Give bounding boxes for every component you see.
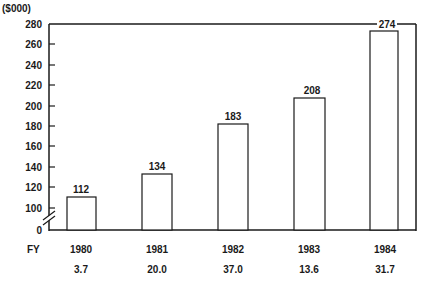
y-tick-label: 240 (25, 60, 42, 71)
y-tick-label: 140 (25, 162, 42, 173)
secondary-value: 13.6 (299, 264, 319, 275)
secondary-value: 20.0 (147, 264, 167, 275)
secondary-row-values: 3.7 20.0 37.0 13.6 31.7 (74, 264, 395, 275)
bar-1981 (142, 174, 172, 230)
y-axis-tick-labels: 280 260 240 220 200 180 160 140 120 100 … (25, 19, 42, 236)
y-tick-label: 160 (25, 141, 42, 152)
bar-chart: ($000) 280 260 240 220 200 180 160 140 1… (0, 0, 422, 285)
x-axis-label-fy: FY (27, 244, 40, 255)
y-tick-label: 260 (25, 39, 42, 50)
secondary-value: 37.0 (223, 264, 243, 275)
y-tick-label: 0 (36, 225, 42, 236)
x-category-label: 1981 (146, 244, 169, 255)
bar-value-label: 183 (225, 111, 242, 122)
x-category-label: 1980 (70, 244, 93, 255)
y-tick-label: 220 (25, 80, 42, 91)
bar-value-label: 208 (304, 85, 321, 96)
secondary-value: 31.7 (375, 264, 395, 275)
bar-1980 (67, 197, 96, 230)
x-axis-category-labels: 1980 1981 1982 1983 1984 (70, 244, 397, 255)
bars (67, 31, 398, 230)
bar-value-label: 134 (149, 161, 166, 172)
y-axis-unit-label: ($000) (2, 3, 31, 14)
x-category-label: 1984 (374, 244, 397, 255)
bar-1983 (294, 98, 325, 230)
bar-1982 (218, 124, 248, 230)
y-axis-ticks (49, 44, 55, 208)
y-tick-label: 200 (25, 101, 42, 112)
x-category-label: 1983 (298, 244, 321, 255)
bar-1984 (370, 31, 398, 230)
y-tick-label: 120 (25, 182, 42, 193)
y-tick-label: 180 (25, 121, 42, 132)
bar-value-label: 112 (73, 184, 90, 195)
y-tick-label: 280 (25, 19, 42, 30)
y-tick-label: 100 (25, 203, 42, 214)
bar-value-label: 274 (379, 19, 396, 30)
x-category-label: 1982 (222, 244, 245, 255)
secondary-value: 3.7 (74, 264, 88, 275)
